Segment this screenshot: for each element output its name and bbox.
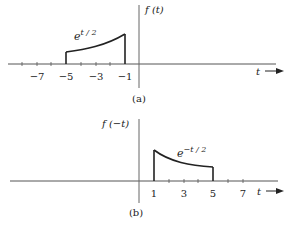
tick-label: 7 bbox=[240, 188, 246, 199]
arrow-right-icon bbox=[266, 188, 284, 194]
panel-a: et / 2 f (t) −7 −5 −3 −1 t (a) bbox=[8, 4, 284, 104]
tick-label: −1 bbox=[118, 71, 133, 82]
tick-label: −5 bbox=[59, 71, 74, 82]
tick-label: −7 bbox=[30, 71, 45, 82]
x-label-a: t bbox=[256, 66, 261, 77]
tick-label: −3 bbox=[89, 71, 104, 82]
tick-label: 3 bbox=[181, 188, 187, 199]
y-label-a: f (t) bbox=[144, 4, 164, 15]
y-label-b: f (−t) bbox=[101, 118, 129, 129]
caption-b: (b) bbox=[129, 207, 143, 218]
tick-label: 1 bbox=[151, 188, 157, 199]
x-label-b: t bbox=[257, 186, 262, 197]
curve-label-a: et / 2 bbox=[74, 28, 97, 43]
arrow-right-icon bbox=[265, 68, 284, 74]
panel-b: e−t / 2 f (−t) 1 3 5 7 t (b) bbox=[10, 118, 284, 218]
caption-a: (a) bbox=[132, 93, 146, 104]
tick-label: 5 bbox=[210, 188, 216, 199]
curve-label-b: e−t / 2 bbox=[177, 145, 206, 160]
time-reversal-figure: et / 2 f (t) −7 −5 −3 −1 t (a) bbox=[0, 0, 296, 227]
